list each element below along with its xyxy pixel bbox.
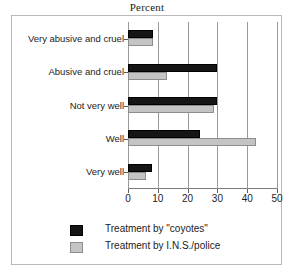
legend-label: Treatment by "coyotes" <box>105 223 208 234</box>
x-axis-line <box>128 188 277 189</box>
x-tick-label: 0 <box>116 193 140 204</box>
bar-group <box>128 164 277 181</box>
category-label: Abusive and cruel <box>6 66 124 77</box>
bar <box>128 130 200 138</box>
bar-group <box>128 130 277 147</box>
category-tick <box>124 39 128 40</box>
chart-figure: Percent Very abusive and cruelAbusive an… <box>0 0 294 272</box>
category-tick <box>124 72 128 73</box>
category-tick <box>124 139 128 140</box>
x-tick-label: 50 <box>265 193 289 204</box>
bar <box>128 38 153 46</box>
category-label: Very well <box>6 166 124 177</box>
bar <box>128 97 217 105</box>
gridline-50 <box>277 22 278 189</box>
bar <box>128 105 214 113</box>
x-tick-label: 10 <box>146 193 170 204</box>
bar <box>128 64 217 72</box>
legend-swatch-icon <box>70 242 83 253</box>
x-tick-label: 20 <box>176 193 200 204</box>
x-tick-label: 40 <box>235 193 259 204</box>
legend-label: Treatment by I.N.S./police <box>105 240 220 251</box>
bar-group <box>128 64 277 81</box>
legend-swatch-icon <box>70 225 83 236</box>
category-label: Well <box>6 133 124 144</box>
category-label: Very abusive and cruel <box>6 33 124 44</box>
bar-group <box>128 30 277 47</box>
category-axis: Very abusive and cruelAbusive and cruelN… <box>4 22 124 189</box>
bar <box>128 30 153 38</box>
bar-group <box>128 97 277 114</box>
category-tick <box>124 172 128 173</box>
x-tick-label: 30 <box>205 193 229 204</box>
chart-title: Percent <box>0 1 294 13</box>
plot-area <box>128 22 277 189</box>
bar <box>128 72 167 80</box>
category-label: Not very well <box>6 100 124 111</box>
category-tick <box>124 106 128 107</box>
bar <box>128 164 152 172</box>
bar <box>128 138 256 146</box>
bar <box>128 172 146 180</box>
